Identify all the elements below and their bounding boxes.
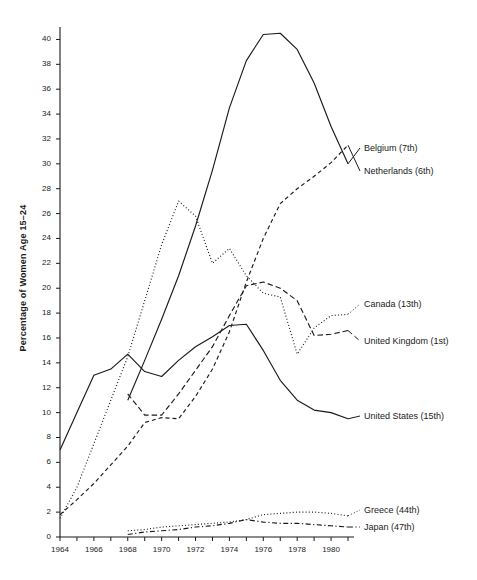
leader-line-netherlands bbox=[348, 145, 360, 171]
line-chart-plot bbox=[0, 0, 477, 580]
y-tick-label: 34 bbox=[31, 109, 51, 118]
series-label-belgium: Belgium (7th) bbox=[364, 143, 418, 153]
leader-line-greece bbox=[348, 510, 360, 516]
series-line-united-states bbox=[60, 324, 348, 450]
y-tick-label: 38 bbox=[31, 59, 51, 68]
y-tick-label: 32 bbox=[31, 134, 51, 143]
x-tick-label: 1964 bbox=[45, 545, 75, 554]
x-tick-label: 1974 bbox=[214, 545, 244, 554]
data-series-group bbox=[60, 33, 360, 534]
leader-line-united-states bbox=[348, 416, 360, 419]
y-tick-label: 12 bbox=[31, 383, 51, 392]
x-tick-label: 1972 bbox=[181, 545, 211, 554]
x-tick-label: 1976 bbox=[248, 545, 278, 554]
y-tick-label: 30 bbox=[31, 159, 51, 168]
y-tick-label: 2 bbox=[31, 507, 51, 516]
x-tick-label: 1980 bbox=[316, 545, 346, 554]
series-label-united-kingdom: United Kingdom (1st) bbox=[364, 336, 449, 346]
series-label-canada: Canada (13th) bbox=[364, 299, 422, 309]
x-tick-label: 1970 bbox=[147, 545, 177, 554]
y-tick-label: 10 bbox=[31, 408, 51, 417]
y-tick-label: 40 bbox=[31, 34, 51, 43]
x-tick-label: 1966 bbox=[79, 545, 109, 554]
chart-figure: Percentage of Women Age 15–24 0246810121… bbox=[0, 0, 477, 580]
series-line-belgium bbox=[128, 33, 348, 400]
y-tick-label: 20 bbox=[31, 283, 51, 292]
series-label-greece: Greece (44th) bbox=[364, 505, 420, 515]
series-line-greece bbox=[128, 512, 348, 531]
y-tick-label: 28 bbox=[31, 184, 51, 193]
series-line-canada bbox=[60, 201, 348, 518]
leader-line-belgium bbox=[348, 148, 360, 164]
y-tick-label: 14 bbox=[31, 358, 51, 367]
x-tick-label: 1978 bbox=[282, 545, 312, 554]
x-tick-label: 1968 bbox=[113, 545, 143, 554]
y-axis-title-text: Percentage of Women Age 15–24 bbox=[18, 168, 28, 388]
y-tick-label: 26 bbox=[31, 209, 51, 218]
series-line-netherlands bbox=[60, 145, 348, 514]
leader-line-united-kingdom bbox=[348, 331, 360, 341]
series-line-japan bbox=[128, 520, 348, 535]
y-tick-label: 36 bbox=[31, 84, 51, 93]
leader-line-canada bbox=[348, 304, 360, 314]
series-label-netherlands: Netherlands (6th) bbox=[364, 166, 434, 176]
axes bbox=[56, 27, 354, 541]
y-tick-label: 0 bbox=[31, 532, 51, 541]
y-tick-label: 24 bbox=[31, 233, 51, 242]
series-line-united-kingdom bbox=[128, 282, 348, 415]
y-tick-label: 18 bbox=[31, 308, 51, 317]
y-tick-label: 22 bbox=[31, 258, 51, 267]
series-label-united-states: United States (15th) bbox=[364, 411, 444, 421]
series-label-japan: Japan (47th) bbox=[364, 522, 415, 532]
y-tick-label: 8 bbox=[31, 432, 51, 441]
y-tick-label: 16 bbox=[31, 333, 51, 342]
y-axis-title: Percentage of Women Age 15–24 bbox=[4, 0, 14, 170]
y-tick-label: 6 bbox=[31, 457, 51, 466]
y-tick-label: 4 bbox=[31, 482, 51, 491]
